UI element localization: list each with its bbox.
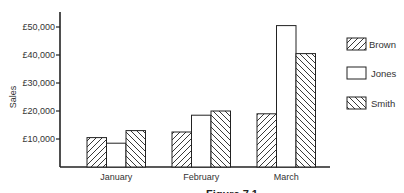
y-tick-label: £10,000 xyxy=(22,134,55,144)
bars-group xyxy=(87,26,316,167)
bar-smith-january xyxy=(126,131,146,167)
bar-brown-february xyxy=(172,132,192,167)
bar-brown-march xyxy=(257,114,277,167)
bar-jones-march xyxy=(277,26,297,167)
bar-smith-march xyxy=(296,54,316,167)
legend-label-jones: Jones xyxy=(371,68,397,79)
x-category-label: February xyxy=(183,172,220,182)
category-labels: JanuaryFebruaryMarch xyxy=(100,172,299,182)
bar-jones-january xyxy=(107,143,127,167)
bar-smith-february xyxy=(211,111,231,167)
y-axis-ticks: £10,000£20,000£30,000£40,000£50,000 xyxy=(22,22,60,144)
y-tick-label: £50,000 xyxy=(22,22,55,32)
y-tick-label: £40,000 xyxy=(22,50,55,60)
legend-swatch-smith xyxy=(347,97,366,109)
bar-brown-january xyxy=(87,138,107,167)
legend: BrownJonesSmith xyxy=(347,38,397,109)
x-category-label: January xyxy=(100,172,133,182)
figure-caption: Figure 7.1 xyxy=(206,188,258,193)
legend-swatch-brown xyxy=(347,38,366,50)
legend-label-smith: Smith xyxy=(371,98,395,109)
y-tick-label: £30,000 xyxy=(22,78,55,88)
y-axis-label: Sales xyxy=(8,85,18,108)
bar-chart: Sales £10,000£20,000£30,000£40,000£50,00… xyxy=(0,0,404,193)
y-tick-label: £20,000 xyxy=(22,106,55,116)
x-category-label: March xyxy=(274,172,299,182)
legend-swatch-jones xyxy=(347,67,366,79)
bar-jones-february xyxy=(192,115,212,167)
legend-label-brown: Brown xyxy=(369,39,396,50)
